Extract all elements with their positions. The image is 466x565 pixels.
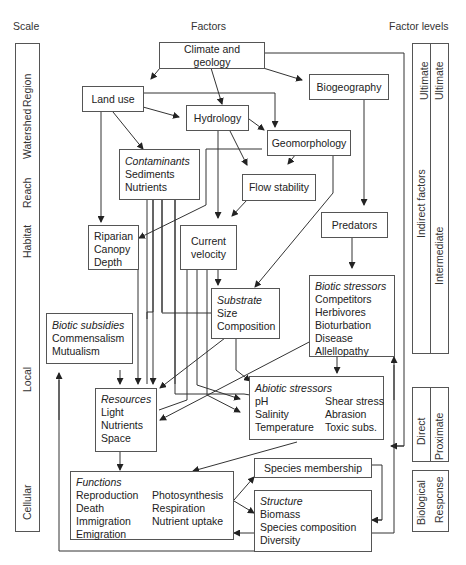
structure-title: Structure — [260, 495, 366, 508]
node-functions: Functions Reproduction Death Immigration… — [70, 471, 234, 540]
biotic-subsidies-title: Biotic subsidies — [52, 319, 127, 332]
node-abiotic-stressors: Abiotic stressors pH Salinity Temperatur… — [249, 376, 384, 440]
velocity-label: velocity — [191, 248, 226, 261]
contaminants-title: Contaminants — [125, 155, 194, 168]
depth-item: Depth — [94, 256, 133, 269]
resources-title: Resources — [101, 393, 151, 406]
node-flow-stability: Flow stability — [242, 174, 316, 201]
function-item: Nutrient uptake — [152, 515, 223, 528]
abiotic-item: Shear stress — [325, 395, 384, 408]
biotic-stressor-item: Competitors — [315, 293, 389, 306]
function-item: Death — [76, 502, 152, 515]
functions-title: Functions — [76, 476, 228, 489]
substrate-item: Size — [217, 307, 274, 320]
canopy-item: Canopy — [94, 243, 133, 256]
riparian-item: Riparian — [94, 230, 133, 243]
node-species-membership: Species membership — [254, 458, 372, 478]
node-biotic-subsidies: Biotic subsidies Commensalism Mutualism — [46, 313, 133, 364]
substrate-title: Substrate — [217, 294, 274, 307]
contaminants-item: Sediments — [125, 168, 194, 181]
node-biotic-stressors: Biotic stressors Competitors Herbivores … — [309, 275, 395, 357]
node-riparian: Riparian Canopy Depth — [88, 225, 139, 270]
biotic-subsidy-item: Commensalism — [52, 332, 127, 345]
resource-item: Light — [101, 406, 151, 419]
structure-item: Species composition — [260, 521, 366, 534]
abiotic-item: Toxic subs. — [325, 421, 384, 434]
node-substrate: Substrate Size Composition — [211, 288, 280, 339]
structure-item: Diversity — [260, 534, 366, 547]
resource-item: Space — [101, 432, 151, 445]
node-resources: Resources Light Nutrients Space — [95, 388, 157, 452]
node-structure: Structure Biomass Species composition Di… — [254, 490, 372, 552]
node-biogeography: Biogeography — [309, 74, 389, 100]
function-item: Reproduction — [76, 489, 152, 502]
abiotic-stressors-title: Abiotic stressors — [255, 382, 378, 395]
biotic-stressors-title: Biotic stressors — [315, 280, 389, 293]
function-item: Immigration — [76, 515, 152, 528]
node-geomorphology: Geomorphology — [267, 130, 351, 156]
abiotic-item: Salinity — [255, 408, 325, 421]
biotic-stressor-item: Herbivores — [315, 306, 389, 319]
function-item: Respiration — [152, 502, 223, 515]
substrate-item: Composition — [217, 320, 274, 333]
contaminants-item: Nutrients — [125, 181, 194, 194]
node-climate-geology: Climate and geology — [159, 42, 265, 69]
diagram-canvas: Scale Factors Factor levels Region Water… — [0, 0, 466, 565]
abiotic-item: Abrasion — [325, 408, 384, 421]
abiotic-item: Temperature — [255, 421, 325, 434]
node-land-use: Land use — [82, 86, 144, 112]
node-contaminants: Contaminants Sediments Nutrients — [119, 149, 200, 200]
biotic-stressor-item: Disease — [315, 332, 389, 345]
current-label: Current — [191, 235, 226, 248]
structure-item: Biomass — [260, 508, 366, 521]
node-hydrology: Hydrology — [186, 105, 249, 131]
node-current-velocity: Current velocity — [180, 225, 237, 270]
function-item: Photosynthesis — [152, 489, 223, 502]
biotic-subsidy-item: Mutualism — [52, 345, 127, 358]
resource-item: Nutrients — [101, 419, 151, 432]
node-predators: Predators — [321, 212, 388, 238]
biotic-stressor-item: Allellopathy — [315, 345, 389, 358]
biotic-stressor-item: Bioturbation — [315, 319, 389, 332]
abiotic-item: pH — [255, 395, 325, 408]
function-item: Emigration — [76, 528, 152, 541]
